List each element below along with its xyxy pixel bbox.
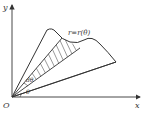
origin-label: O (3, 101, 10, 110)
polar-region-outline (12, 29, 116, 97)
x-axis-label: x (135, 101, 140, 110)
dtheta-arc (24, 83, 28, 86)
dtheta-label: dθ (26, 76, 34, 83)
theta-label: θ (26, 88, 30, 95)
sector-ray-2 (12, 48, 80, 97)
y-axis-label: y (2, 3, 8, 12)
polar-area-diagram: y x O r=r(θ) dθ θ (0, 0, 145, 124)
curve-label: r=r(θ) (68, 29, 91, 37)
